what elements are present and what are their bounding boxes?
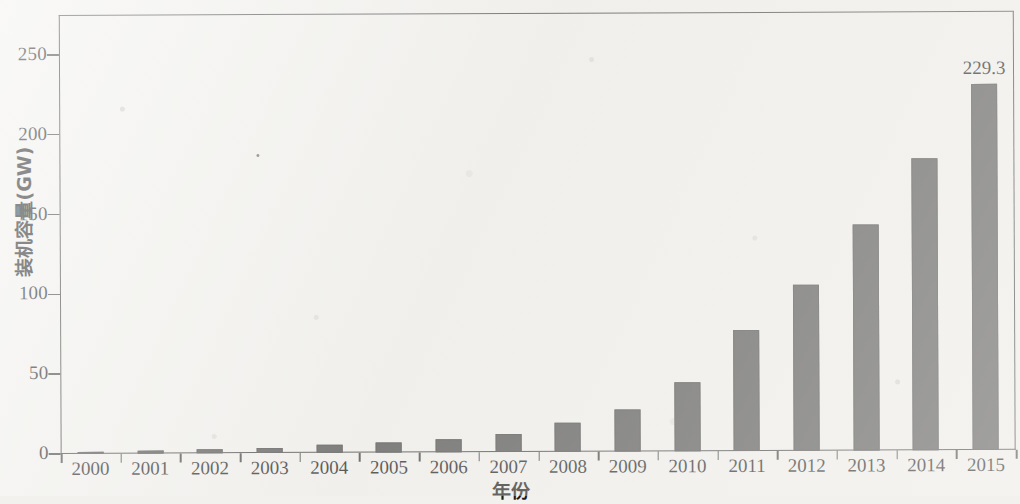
x-axis-title: 年份 [1, 474, 1020, 504]
bar [197, 449, 223, 453]
y-axis-tick-label: 0 [0, 442, 49, 464]
y-axis-tick-label: 50 [0, 362, 48, 384]
chart-plot-tilt-wrapper: 050100150200250 200020012002200320042005… [0, 0, 1020, 498]
bar [734, 330, 761, 451]
bar [78, 451, 104, 454]
bar [674, 382, 700, 452]
bar [316, 445, 342, 453]
y-axis-tick [49, 453, 61, 455]
bar [137, 451, 163, 454]
bar [912, 158, 939, 450]
y-axis-tick [48, 373, 60, 375]
y-axis-tick [47, 134, 59, 136]
bar [436, 439, 462, 452]
bar-series [0, 0, 1019, 2]
bar [495, 434, 521, 452]
y-axis-tick-label: 250 [0, 43, 47, 65]
bar [257, 448, 283, 453]
y-axis-tick [48, 294, 60, 296]
y-axis-tick [47, 54, 59, 56]
y-axis-tick [48, 214, 60, 216]
y-axis-ticks [0, 0, 1019, 2]
bar [971, 84, 999, 450]
bar-value-label: 229.3 [939, 57, 1020, 79]
x-axis-ticks [0, 0, 1019, 2]
x-axis-tick-labels: 2000200120022003200420052006200720082009… [0, 0, 1019, 2]
bar-value-labels: 229.3 [0, 0, 1019, 2]
y-axis-title: 装机容量(GW) [9, 97, 37, 327]
bar [555, 423, 581, 452]
bar [376, 443, 402, 453]
x-axis-tick-label: 2015 [950, 454, 1020, 476]
scan-speck [256, 154, 259, 157]
bar [793, 285, 820, 451]
y-axis-tick-labels: 050100150200250 [0, 0, 1019, 2]
bar [852, 225, 879, 451]
bar [615, 410, 641, 452]
